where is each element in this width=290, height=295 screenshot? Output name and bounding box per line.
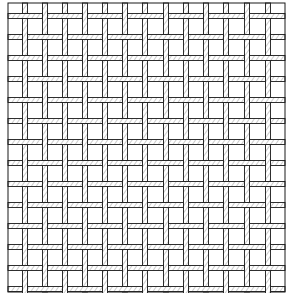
wire-mesh-drawing: [0, 0, 290, 295]
